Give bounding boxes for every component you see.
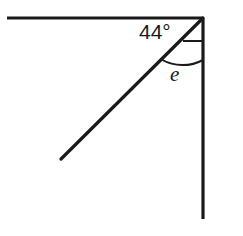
angle-label-e: e [170,64,179,85]
diagonal-ray-line [61,18,203,159]
angle-arc-e [162,60,204,66]
geometry-diagram-svg [0,0,243,236]
geometry-figure: 44° e [0,0,243,236]
angle-label-44-degrees: 44° [139,21,171,42]
